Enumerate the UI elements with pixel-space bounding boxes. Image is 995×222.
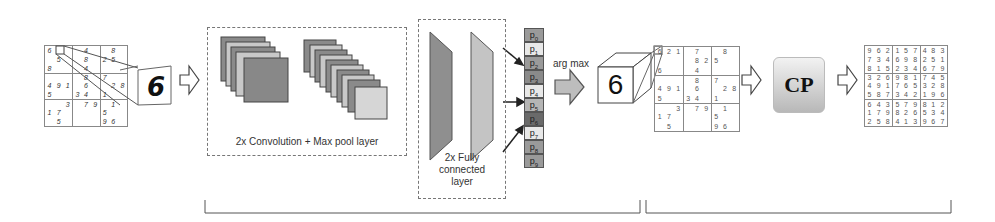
grid-cell: 2: [874, 73, 883, 82]
grid-cell: 5: [901, 46, 910, 55]
grid-cell: 1: [938, 55, 947, 64]
grid-cell: 4: [865, 82, 874, 91]
grid-cell: 6: [883, 73, 892, 82]
grid-cell: 6: [655, 66, 664, 75]
grid-cell: 5: [664, 122, 673, 131]
grid-cell: 9: [874, 82, 883, 91]
grid-cell: 7: [664, 112, 673, 121]
grid-cell: 6: [692, 84, 701, 93]
grid-cell: [664, 94, 673, 103]
grid-cell: 8: [865, 64, 874, 73]
grid-cell: 6: [929, 117, 938, 126]
grid-cell: 7: [874, 108, 883, 117]
probability-cell-p1: p1: [524, 42, 544, 56]
grid-cell: 3: [938, 46, 947, 55]
solved-sudoku-grid: 9621574837346982518152346793269817454917…: [864, 45, 948, 127]
grid-cell: 4: [692, 66, 701, 75]
grid-cell: 3: [683, 94, 692, 103]
grid-cell: [720, 56, 729, 65]
grid-cell: 5: [929, 55, 938, 64]
grid-cell: 7: [911, 46, 920, 55]
grid-cell: 2: [865, 117, 874, 126]
cp-solver-box: CP: [773, 57, 825, 113]
grid-cell: [711, 103, 720, 112]
grid-cell: 9: [901, 55, 910, 64]
grid-cell: 8: [730, 84, 739, 93]
grid-cell: 9: [664, 84, 673, 93]
grid-cell: [730, 56, 739, 65]
grid-cell: [674, 66, 683, 75]
grid-cell: 3: [920, 82, 929, 91]
grid-cell: [674, 94, 683, 103]
grid-cell: 5: [883, 64, 892, 73]
grid-cell: 6: [865, 99, 874, 108]
grid-cell: 7: [711, 75, 720, 84]
grid-cell: [683, 84, 692, 93]
grid-cell: 1: [929, 99, 938, 108]
grid-cell: 8: [938, 82, 947, 91]
grid-cell: [702, 112, 711, 121]
grid-cell: 3: [929, 108, 938, 117]
grid-cell: 1: [883, 82, 892, 91]
recognized-sudoku-grid: 62178825648749162853413791175596: [654, 46, 740, 132]
grid-cell: 8: [920, 99, 929, 108]
grid-cell: [730, 103, 739, 112]
fc-label-2: connected: [418, 164, 506, 175]
grid-cell: [674, 112, 683, 121]
fc-label-1: 2x Fully: [418, 152, 506, 163]
grid-cell: 6: [892, 55, 901, 64]
grid-cell: 4: [874, 99, 883, 108]
grid-cell: [730, 66, 739, 75]
grid-cell: [655, 56, 664, 65]
grid-cell: 1: [674, 84, 683, 93]
grid-cell: 4: [929, 73, 938, 82]
grid-cell: [711, 66, 720, 75]
grid-cell: 9: [920, 117, 929, 126]
grid-cell: [702, 94, 711, 103]
probability-cell-p8: p8: [524, 140, 544, 154]
grid-cell: 6: [938, 90, 947, 99]
grid-cell: 9: [865, 46, 874, 55]
grid-cell: 9: [938, 64, 947, 73]
grid-cell: 3: [901, 64, 910, 73]
grid-cell: 3: [892, 90, 901, 99]
grid-cell: 1: [655, 112, 664, 121]
grid-cell: [702, 84, 711, 93]
grid-cell: [664, 56, 673, 65]
grid-cell: 6: [720, 122, 729, 131]
grid-cell: 4: [938, 108, 947, 117]
grid-cell: 1: [892, 46, 901, 55]
grid-cell: 5: [938, 73, 947, 82]
grid-cell: 7: [692, 47, 701, 56]
grid-cell: 7: [892, 82, 901, 91]
probability-cell-p5: p5: [524, 98, 544, 112]
grid-cell: 7: [883, 90, 892, 99]
grid-cell: [664, 75, 673, 84]
grid-cell: 3: [674, 103, 683, 112]
grid-cell: 5: [911, 82, 920, 91]
grid-cell: 5: [892, 99, 901, 108]
argmax-label: arg max: [546, 58, 596, 69]
grid-cell: [683, 66, 692, 75]
grid-cell: 9: [929, 90, 938, 99]
grid-cell: [730, 94, 739, 103]
grid-cell: [683, 122, 692, 131]
grid-cell: 5: [711, 112, 720, 121]
grid-cell: 1: [674, 47, 683, 56]
grid-cell: 7: [901, 99, 910, 108]
grid-cell: 5: [920, 108, 929, 117]
grid-cell: 3: [874, 55, 883, 64]
grid-cell: 1: [911, 73, 920, 82]
grid-cell: [702, 66, 711, 75]
probability-cell-p2: p2: [524, 56, 544, 70]
grid-cell: [702, 47, 711, 56]
grid-cell: 3: [911, 117, 920, 126]
argmax-arrow: [555, 70, 584, 104]
probability-cell-p3: p3: [524, 70, 544, 84]
grid-cell: 9: [892, 73, 901, 82]
grid-cell: 8: [901, 73, 910, 82]
grid-cell: [692, 122, 701, 131]
probability-cell-p4: p4: [524, 84, 544, 98]
grid-cell: 2: [911, 90, 920, 99]
grid-cell: [674, 75, 683, 84]
